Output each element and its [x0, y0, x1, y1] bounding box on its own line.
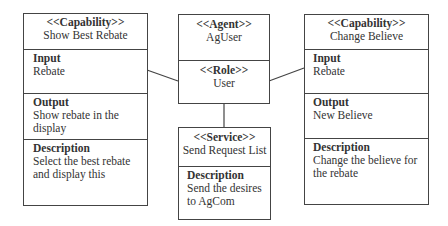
input-section: Input Rebate [305, 49, 428, 93]
capability-name: Change Believe [305, 30, 428, 43]
stereotype-label: <<Capability>> [305, 17, 428, 30]
link-role-to-change-believe [269, 68, 304, 81]
service-name: Send Request List [179, 144, 270, 157]
service-header: <<Service>> Send Request List [179, 128, 270, 166]
description-section: Description Select the best rebate and d… [24, 139, 147, 205]
role-stereotype: <<Role>> [179, 64, 269, 77]
service-send-request-list: <<Service>> Send Request List Descriptio… [178, 127, 271, 220]
description-section: Description Change the believe for the r… [305, 138, 428, 204]
input-section: Input Rebate [24, 49, 147, 93]
input-label: Input [313, 52, 428, 65]
description-line2: to AgCom [187, 195, 270, 208]
output-label: Output [313, 96, 428, 109]
service-description-section: Description Send the desires to AgCom [179, 166, 270, 219]
description-label: Description [313, 141, 428, 154]
input-label: Input [33, 52, 147, 65]
agent-name: AgUser [179, 31, 269, 44]
agent-section: <<Agent>> AgUser [179, 15, 269, 60]
capability-header: <<Capability>> Show Best Rebate [24, 14, 147, 49]
role-section: <<Role>> User [179, 60, 269, 103]
description-line2: and display this [33, 168, 147, 181]
agent-stereotype: <<Agent>> [179, 18, 269, 31]
input-value: Rebate [313, 65, 428, 78]
description-line2: the rebate [313, 167, 428, 180]
stereotype-label: <<Capability>> [24, 16, 147, 29]
output-section: Output New Believe [305, 93, 428, 138]
capability-name: Show Best Rebate [24, 29, 147, 42]
output-section: Output Show rebate in the display [24, 93, 147, 139]
output-label: Output [33, 96, 147, 109]
description-label: Description [33, 142, 147, 155]
link-role-to-show-best-rebate [147, 70, 178, 81]
input-value: Rebate [33, 65, 147, 78]
service-stereotype: <<Service>> [179, 131, 270, 144]
agent-role-box: <<Agent>> AgUser <<Role>> User [178, 14, 270, 104]
capability-header: <<Capability>> Change Believe [305, 15, 428, 49]
capability-change-believe: <<Capability>> Change Believe Input Reba… [304, 14, 429, 205]
description-label: Description [187, 169, 270, 182]
capability-show-best-rebate: <<Capability>> Show Best Rebate Input Re… [23, 13, 148, 206]
output-value: New Believe [313, 109, 428, 122]
description-line1: Send the desires [187, 182, 270, 195]
output-value-line2: display [33, 122, 147, 135]
role-name: User [179, 77, 269, 90]
description-line1: Select the best rebate [33, 155, 147, 168]
description-line1: Change the believe for [313, 154, 428, 167]
output-value-line1: Show rebate in the [33, 109, 147, 122]
